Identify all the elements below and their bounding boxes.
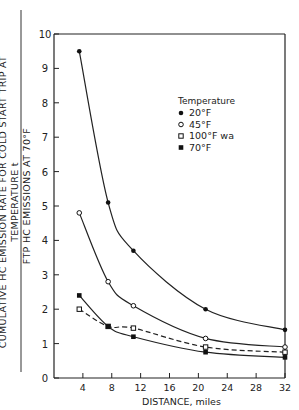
data-point (283, 328, 288, 333)
line-chart: 01234567891048121620242832DISTANCE, mile… (0, 0, 299, 410)
data-point (77, 211, 82, 216)
data-point (283, 355, 288, 360)
data-point (203, 350, 208, 355)
y-tick-label: 4 (42, 235, 48, 246)
y-tick-label: 6 (42, 167, 48, 178)
x-tick-label: 28 (250, 382, 262, 393)
data-point (283, 345, 288, 350)
data-point (131, 248, 136, 253)
y-tick-label: 1 (42, 339, 48, 350)
x-axis-label: DISTANCE, miles (142, 396, 221, 407)
data-point (77, 307, 81, 311)
data-point (131, 303, 136, 308)
data-point (77, 49, 82, 54)
data-point (203, 336, 208, 341)
legend-label: 100°F wa (189, 130, 234, 141)
data-point (283, 350, 287, 354)
x-tick-label: 12 (135, 382, 147, 393)
y-tick-label: 2 (42, 304, 48, 315)
data-point (131, 334, 136, 339)
legend-label: 20°F (189, 107, 211, 118)
x-tick-label: 20 (192, 382, 204, 393)
data-point (203, 345, 207, 349)
data-point (77, 293, 82, 298)
data-point (106, 200, 111, 205)
x-tick-label: 8 (109, 382, 115, 393)
y-tick-label: 8 (42, 98, 48, 109)
legend-marker (179, 122, 184, 127)
legend-title: Temperature (177, 96, 235, 106)
data-point (106, 279, 111, 284)
y-tick-label: 10 (39, 29, 52, 40)
x-tick-label: 16 (163, 382, 175, 393)
data-point (131, 326, 135, 330)
legend-marker (179, 145, 184, 150)
data-point (203, 307, 208, 312)
legend-label: 70°F (189, 142, 211, 153)
y-tick-label: 7 (42, 132, 48, 143)
y-tick-label: 9 (42, 63, 48, 74)
x-tick-label: 4 (80, 382, 86, 393)
x-tick-label: 32 (279, 382, 291, 393)
legend-marker (179, 134, 183, 138)
y-tick-label: 0 (42, 373, 48, 384)
y-tick-label: 5 (42, 201, 48, 212)
y-tick-label: 3 (42, 270, 48, 281)
x-tick-label: 24 (221, 382, 233, 393)
legend-label: 45°F (189, 119, 211, 130)
data-point (106, 324, 111, 329)
legend-marker (179, 111, 184, 116)
series-line (79, 51, 285, 330)
